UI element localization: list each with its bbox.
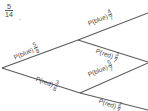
corner-fraction-numerator: 5	[7, 3, 11, 10]
branch-label-text: P(red)	[98, 97, 117, 109]
corner-trailing-mark: .	[19, 14, 21, 21]
branch-label-text: P(red)	[95, 47, 114, 59]
branch-label-text: P(red)	[35, 75, 54, 88]
probability-tree-diagram: 5 14 . P(blue) 5 8 P(red) 3 8 P(blue) 4 …	[0, 0, 148, 111]
corner-fraction-denominator: 14	[5, 10, 13, 18]
corner-fraction: 5 14	[5, 3, 13, 18]
